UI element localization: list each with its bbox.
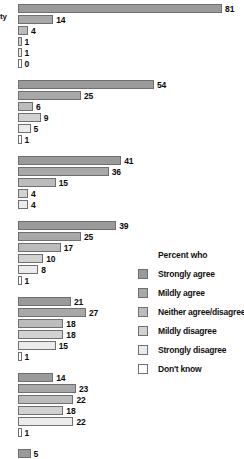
bar-value-label: 18	[66, 406, 75, 416]
bar-value-label: 9	[44, 113, 49, 123]
bar	[18, 265, 38, 274]
legend-swatch-icon	[138, 288, 148, 298]
bar-row: 22	[18, 417, 244, 426]
legend-swatch-icon	[138, 326, 148, 336]
legend-item: Mildly agree	[138, 288, 244, 298]
legend-item-label: Mildly disagree	[158, 326, 216, 336]
bar-row: 9	[18, 113, 244, 122]
bar	[18, 37, 22, 46]
bar-row: 36	[18, 167, 244, 176]
bar	[18, 102, 33, 111]
bar-row: 41	[18, 156, 244, 165]
bar	[18, 384, 76, 393]
bar-value-label: 22	[76, 395, 85, 405]
legend-item: Strongly agree	[138, 269, 244, 279]
legend-swatch-icon	[138, 345, 148, 355]
bar	[18, 352, 22, 361]
bar-value-label: 18	[66, 319, 75, 329]
bar	[18, 417, 73, 426]
bar-row: 54	[18, 80, 244, 89]
legend-item: Neither agree/disagree	[138, 307, 244, 317]
bar-value-label: 36	[112, 167, 121, 177]
bar-value-label: 54	[157, 80, 166, 90]
legend-item: Strongly disagree	[138, 345, 244, 355]
legend-swatch-icon	[138, 307, 148, 317]
bar-row: 25	[18, 232, 244, 241]
legend-item: Don't know	[138, 364, 244, 374]
legend-item-label: Mildly agree	[158, 288, 205, 298]
bar-value-label: 1	[25, 37, 30, 47]
bar	[18, 48, 22, 57]
bar-value-label: 1	[25, 352, 30, 362]
bar-value-label: 1	[25, 48, 30, 58]
bar-value-label: 10	[46, 254, 55, 264]
bar	[18, 178, 56, 187]
bar	[18, 297, 71, 306]
bar-row: 1	[18, 48, 244, 57]
bar	[18, 15, 53, 24]
bar-row: 18	[18, 406, 244, 415]
bar-value-label: 27	[89, 308, 98, 318]
legend-item-label: Strongly agree	[158, 269, 215, 279]
bar-row: 4	[18, 26, 244, 35]
chart-legend: Percent who Strongly agreeMildly agreeNe…	[138, 250, 244, 383]
bar-value-label: 18	[66, 330, 75, 340]
legend-title: Percent who	[158, 250, 244, 260]
legend-swatch-icon	[138, 364, 148, 374]
bar-value-label: 4	[31, 26, 36, 36]
bar-value-label: 5	[34, 449, 39, 459]
bar	[18, 156, 121, 165]
bar	[18, 26, 28, 35]
bar	[18, 428, 22, 437]
bar-row: 1	[18, 37, 244, 46]
bar-value-label: 81	[225, 4, 234, 14]
bar-row: 22	[18, 395, 244, 404]
bar	[18, 124, 31, 133]
bar-row: 81	[18, 4, 244, 13]
bar-value-label: 23	[79, 384, 88, 394]
legend-swatch-icon	[138, 269, 148, 279]
bar-value-label: 0	[25, 59, 30, 69]
bar	[18, 330, 63, 339]
legend-item-label: Don't know	[158, 364, 201, 374]
bar-value-label: 15	[59, 178, 68, 188]
bar-value-label: 25	[84, 232, 93, 242]
bar-value-label: 14	[56, 15, 65, 25]
bar-row: 14	[18, 15, 244, 24]
bar-value-label: 15	[59, 341, 68, 351]
bar	[18, 189, 28, 198]
bar	[18, 308, 86, 317]
bar	[18, 232, 81, 241]
bar-value-label: 39	[119, 221, 128, 231]
bar-value-label: 6	[36, 102, 41, 112]
bar-value-label: 4	[31, 189, 36, 199]
bar-value-label: 5	[34, 124, 39, 134]
bar-row: 1	[18, 135, 244, 144]
bar-row: 5	[18, 124, 244, 133]
bar-value-label: 8	[41, 265, 46, 275]
bar-row: 5	[18, 449, 244, 458]
bar	[18, 319, 63, 328]
bar	[18, 113, 41, 122]
bar	[18, 341, 56, 350]
bar-row: 23	[18, 384, 244, 393]
bar-row: 25	[18, 91, 244, 100]
bar-value-label: 4	[31, 200, 36, 210]
bar-value-label: 1	[25, 135, 30, 145]
bar-value-label: 1	[25, 428, 30, 438]
bar-value-label: 21	[74, 297, 83, 307]
bar-value-label: 41	[124, 156, 133, 166]
bar-row: 15	[18, 178, 244, 187]
bar-row: 4	[18, 200, 244, 209]
bar-value-label: 25	[84, 91, 93, 101]
bar-value-label: 22	[76, 417, 85, 427]
bar-row: 0	[18, 59, 244, 68]
bar-chart: 81144110ty542569514136154439251710812127…	[0, 0, 244, 459]
bar	[18, 135, 22, 144]
bar	[18, 4, 222, 13]
bar	[18, 449, 31, 458]
legend-item: Mildly disagree	[138, 326, 244, 336]
bar	[18, 373, 53, 382]
bar	[18, 276, 22, 285]
bar-value-label: 17	[64, 243, 73, 253]
